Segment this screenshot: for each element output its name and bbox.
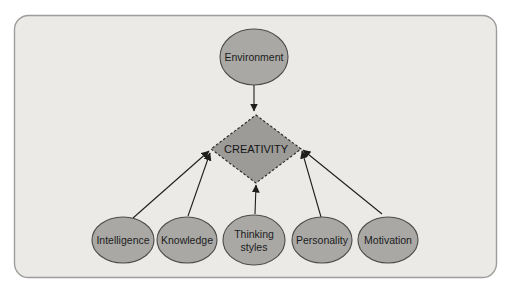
- node-thinking-styles: [223, 215, 285, 265]
- node-knowledge-label: Knowledge: [161, 234, 213, 246]
- creativity-diagram: Environment CREATIVITY Intelligence Know…: [0, 0, 512, 295]
- diagram-canvas: Environment CREATIVITY Intelligence Know…: [0, 0, 512, 295]
- node-creativity-label: CREATIVITY: [224, 143, 289, 155]
- node-intelligence-label: Intelligence: [96, 234, 149, 246]
- node-thinking-styles-label-line1: Thinking: [234, 228, 274, 240]
- node-thinking-styles-label-line2: styles: [241, 241, 268, 253]
- node-environment-label: Environment: [225, 51, 284, 63]
- node-personality-label: Personality: [296, 234, 349, 246]
- node-motivation-label: Motivation: [364, 234, 412, 246]
